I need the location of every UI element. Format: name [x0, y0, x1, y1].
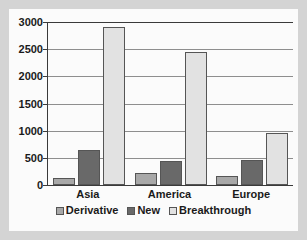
legend-swatch-new: [127, 207, 135, 215]
y-tick-label-3000: 3000: [9, 17, 43, 28]
chart-panel: 050010001500200025003000 AsiaAmericaEuro…: [9, 9, 298, 231]
bars-layer: [48, 22, 293, 185]
y-tick-label-2500: 2500: [9, 44, 43, 55]
legend-item-new[interactable]: New: [127, 205, 160, 216]
y-tick-label-1000: 1000: [9, 125, 43, 136]
x-category-label-america: America: [148, 187, 191, 201]
y-tick-label-2000: 2000: [9, 71, 43, 82]
y-tick-label-1500: 1500: [9, 98, 43, 109]
bar-asia-breakthrough[interactable]: [103, 27, 125, 185]
plot-wrapper: 050010001500200025003000 AsiaAmericaEuro…: [9, 9, 298, 231]
y-axis-tick-labels: 050010001500200025003000: [9, 9, 43, 231]
bar-america-derivative[interactable]: [135, 173, 157, 185]
legend-swatch-breakthrough: [169, 207, 177, 215]
bar-america-new[interactable]: [160, 161, 182, 185]
chart-legend: DerivativeNewBreakthrough: [9, 205, 298, 216]
bar-europe-derivative[interactable]: [216, 176, 238, 185]
bar-asia-derivative[interactable]: [53, 178, 75, 185]
bar-america-breakthrough[interactable]: [185, 52, 207, 185]
legend-swatch-derivative: [56, 207, 64, 215]
legend-item-derivative[interactable]: Derivative: [56, 205, 119, 216]
x-category-label-europe: Europe: [232, 187, 270, 201]
bar-europe-new[interactable]: [241, 160, 263, 185]
bar-group-europe: [216, 22, 288, 185]
chart-figure: 050010001500200025003000 AsiaAmericaEuro…: [0, 0, 307, 240]
bar-group-asia: [53, 22, 125, 185]
y-tick-mark-0: [43, 185, 48, 186]
bar-group-america: [135, 22, 207, 185]
legend-label-breakthrough: Breakthrough: [179, 205, 251, 216]
legend-item-breakthrough[interactable]: Breakthrough: [169, 205, 251, 216]
x-axis-category-labels: AsiaAmericaEurope: [47, 187, 292, 203]
bar-asia-new[interactable]: [78, 150, 100, 185]
y-tick-label-0: 0: [9, 180, 43, 191]
x-category-label-asia: Asia: [76, 187, 99, 201]
legend-label-derivative: Derivative: [66, 205, 119, 216]
y-tick-label-500: 500: [9, 152, 43, 163]
legend-label-new: New: [137, 205, 160, 216]
bar-europe-breakthrough[interactable]: [266, 133, 288, 185]
plot-area: [47, 22, 293, 186]
